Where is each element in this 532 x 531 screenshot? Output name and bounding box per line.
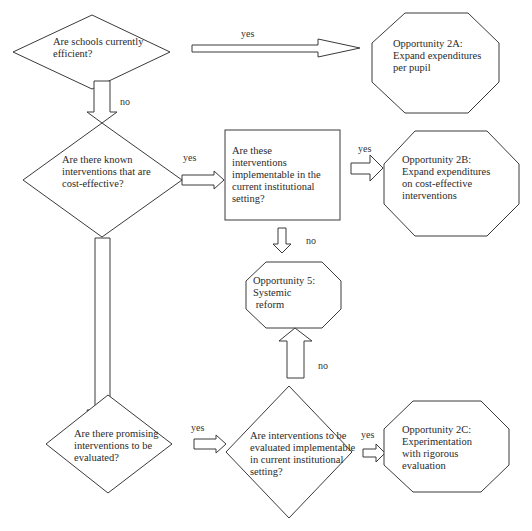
decision-known-label: Are there known interventions that are c… — [62, 154, 151, 190]
arrow-promising-yes — [194, 435, 226, 453]
decision-promising-label: Are there promising interventions to be … — [74, 428, 159, 464]
flowchart-canvas: Are schools currently efficient? Are the… — [0, 0, 532, 531]
edge-eval-yes-label: yes — [361, 429, 374, 440]
edge-implementable-yes-label: yes — [358, 143, 371, 154]
arrow-eval-no — [279, 328, 312, 378]
opportunity-2c-label: Opportunity 2C: Experimentation with rig… — [402, 424, 472, 472]
edge-promising-yes-label: yes — [191, 422, 204, 433]
opportunity-5-label: Opportunity 5: Systemic reform — [253, 275, 315, 311]
arrow-implementable-yes — [351, 155, 383, 181]
arrow-known-yes — [182, 171, 224, 189]
edge-known-yes-label: yes — [183, 152, 196, 163]
decision-eval-implementable-label: Are interventions to be evaluated implem… — [250, 430, 355, 478]
arrow-efficient-yes — [192, 39, 360, 57]
arrow-implementable-no — [273, 228, 291, 253]
decision-efficient-label: Are schools currently efficient? — [53, 36, 143, 60]
process-implementable-label: Are these interventions implementable in… — [232, 145, 321, 205]
edge-efficient-yes-label: yes — [241, 28, 254, 39]
edge-eval-no-label: no — [318, 360, 328, 371]
edge-efficient-no-label: no — [120, 96, 130, 107]
edge-implementable-no-label: no — [306, 235, 316, 246]
opportunity-2b-label: Opportunity 2B: Expand expenditures on c… — [402, 154, 490, 202]
opportunity-2a-label: Opportunity 2A: Expand expenditures per … — [393, 38, 481, 74]
arrow-eval-yes — [363, 444, 385, 462]
